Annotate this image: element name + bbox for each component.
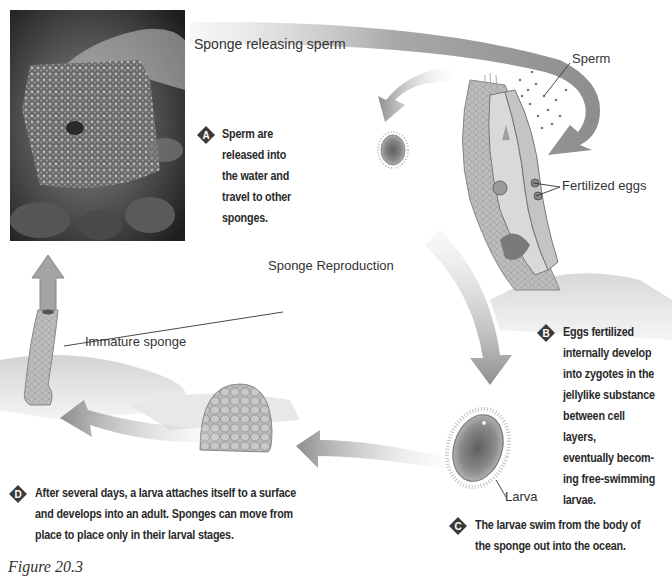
arrow-to-settled-larva bbox=[296, 430, 450, 470]
figure-caption: Figure 20.3 bbox=[8, 558, 83, 576]
step-d-badge: D bbox=[9, 485, 27, 503]
immature-sponge-label: Immature sponge bbox=[85, 334, 186, 349]
sponge-cross-section bbox=[463, 73, 561, 290]
sponge-photo bbox=[10, 10, 185, 241]
larva-label: Larva bbox=[505, 489, 538, 504]
svg-text:D: D bbox=[14, 489, 21, 500]
arrow-to-small-larva bbox=[378, 68, 450, 122]
svg-text:A: A bbox=[202, 130, 209, 141]
larva-illustration bbox=[437, 401, 519, 496]
sperm-label: Sperm bbox=[572, 51, 610, 66]
diagram-title: Sponge Reproduction bbox=[268, 258, 394, 273]
svg-text:C: C bbox=[454, 521, 461, 532]
step-d-text: After several days, a larva attaches its… bbox=[35, 483, 296, 546]
step-a-text: Sperm arereleased intothe water andtrave… bbox=[222, 124, 291, 229]
step-b-text: Eggs fertilizedinternally developinto zy… bbox=[563, 322, 657, 511]
small-larva-illustration bbox=[378, 132, 408, 168]
photo-label: Sponge releasing sperm bbox=[194, 36, 346, 52]
step-b-badge: B bbox=[537, 324, 555, 342]
fertilized-eggs-label: Fertilized eggs bbox=[562, 178, 647, 193]
step-c-badge: C bbox=[449, 517, 467, 535]
step-a-badge: A bbox=[197, 126, 215, 144]
step-c-text: The larvae swim from the body ofthe spon… bbox=[475, 515, 640, 557]
svg-text:B: B bbox=[542, 328, 549, 339]
